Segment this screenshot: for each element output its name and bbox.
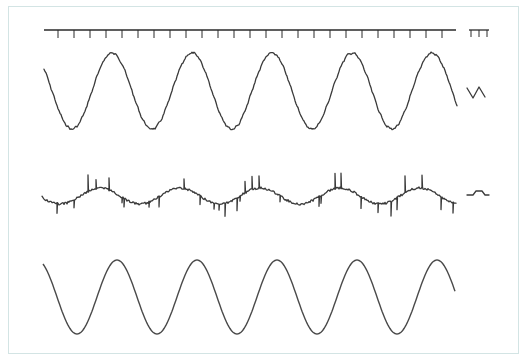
calibration-step-pulse-icon	[467, 191, 489, 195]
calibration-marks	[467, 87, 489, 195]
trace-top-irregular-sine	[44, 52, 457, 130]
calibration-v-zigzag-icon	[467, 87, 485, 98]
trace-middle-noisy-spiked	[42, 173, 456, 216]
waveform-traces	[42, 52, 457, 334]
waveform-plot	[0, 0, 527, 361]
time-marker-axis	[44, 30, 489, 38]
trace-bottom-clean-sine	[43, 260, 455, 334]
